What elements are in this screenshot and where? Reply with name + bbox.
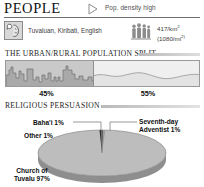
urban-rural-section-title: THE URBAN/RURAL POPULATION SPLIT — [5, 49, 156, 58]
pie-label-sda-line1: Seventh-day — [139, 118, 180, 126]
density-imperial: (1080/mi — [157, 36, 181, 43]
pie-label-other: Other 1% — [24, 132, 53, 140]
languages-value: Tuvaluan, Kiribati, English — [28, 27, 102, 34]
city-skyline-icon — [6, 61, 93, 86]
pie-label-sda-line2: Adventist 1% — [139, 126, 180, 134]
speech-face-icon — [4, 21, 23, 40]
pie-label-church-line2: Tuvalu 97% — [14, 175, 50, 183]
pie-label-seventh-day-adventist: Seventh-day Adventist 1% — [139, 118, 180, 134]
religion-section-title: RELIGIOUS PERSUASION — [5, 101, 100, 110]
page-title: PEOPLE — [4, 1, 61, 16]
rolling-hills-icon — [93, 61, 199, 86]
header-divider — [4, 17, 200, 18]
pie-label-bahai: Baha'i 1% — [33, 119, 64, 127]
density-metric-exponent: 2 — [177, 24, 179, 29]
pop-density-note: Pop. density high — [105, 4, 156, 11]
rural-percent-label: 55% — [93, 89, 203, 98]
urban-rural-title-rule — [139, 53, 200, 56]
population-density-value: 417/km2 (1080/mi2) — [157, 23, 185, 44]
triangle-right-icon — [88, 3, 98, 15]
split-divider — [93, 61, 94, 86]
density-metric: 417/km — [157, 25, 177, 32]
pie-label-church-of-tuvalu: Church of Tuvalu 97% — [14, 167, 50, 183]
urban-rural-split-graphic — [5, 60, 200, 87]
density-imperial-exponent: 2) — [181, 34, 185, 39]
religion-pie-chart: Baha'i 1% Other 1% Seventh-day Adventist… — [0, 110, 204, 187]
religion-title-rule — [101, 105, 200, 108]
facts-row: Tuvaluan, Kiribati, English 417/km2 (108… — [4, 21, 200, 45]
urban-percent-label: 45% — [0, 89, 93, 98]
pie-label-church-line1: Church of — [14, 167, 50, 175]
people-infographic-panel: PEOPLE Pop. density high Tuvaluan, Kirib… — [0, 0, 204, 187]
crowd-people-icon — [130, 22, 152, 41]
